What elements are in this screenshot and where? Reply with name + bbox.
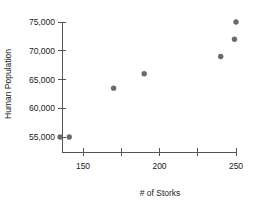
data-point-2 xyxy=(111,85,116,90)
data-points xyxy=(57,19,238,139)
data-point-6 xyxy=(233,19,238,24)
y-axis-title: Human Population xyxy=(3,49,13,119)
y-tick-label-3: 70,000 xyxy=(29,46,55,56)
data-point-1 xyxy=(67,134,72,139)
y-tick-label-1: 60,000 xyxy=(29,103,55,113)
y-tick-label-4: 75,000 xyxy=(29,17,55,27)
y-tick-label-2: 65,000 xyxy=(29,75,55,85)
x-axis-title: # of Storks xyxy=(140,188,181,198)
y-tick-label-0: 55,000 xyxy=(29,132,55,142)
x-tick-label-4: 250 xyxy=(229,161,243,171)
data-point-3 xyxy=(142,71,147,76)
data-point-0 xyxy=(57,134,62,139)
x-tick-label-0: 150 xyxy=(76,161,90,171)
scatter-plot-figure: 55,00060,00065,00070,00075,000 150200250… xyxy=(0,0,255,204)
y-axis-tick-labels: 55,00060,00065,00070,00075,000 xyxy=(29,17,55,142)
data-point-4 xyxy=(218,54,223,59)
data-point-5 xyxy=(232,37,237,42)
x-axis-tick-labels: 150200250 xyxy=(76,161,243,171)
chart-canvas: 55,00060,00065,00070,00075,000 150200250… xyxy=(0,0,255,204)
x-tick-label-2: 200 xyxy=(152,161,166,171)
